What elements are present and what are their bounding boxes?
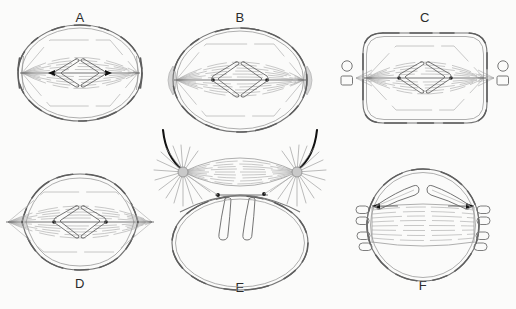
figure-canvas: A xyxy=(0,0,516,309)
chromosome-left xyxy=(219,198,231,241)
polar-cap-right xyxy=(141,58,142,88)
chromosome-right xyxy=(243,198,255,241)
cell-membrane-inner xyxy=(176,199,305,287)
panel-c: C xyxy=(341,10,509,123)
organelle-circle-right xyxy=(498,61,508,71)
chromosome-left xyxy=(376,185,419,209)
centrosome-blob-right xyxy=(304,66,313,95)
centrosome-blob-left xyxy=(168,66,177,95)
panel-label-f: F xyxy=(419,278,427,293)
panel-label-d: D xyxy=(75,276,85,291)
chromosome-right xyxy=(427,185,470,209)
panel-label-e: E xyxy=(235,280,244,295)
panel-d: D xyxy=(6,174,154,291)
panel-label-b: B xyxy=(235,10,244,25)
pole-organelles-right xyxy=(474,206,490,251)
chromosome-left xyxy=(399,62,425,94)
cell-membrane-texture xyxy=(172,196,308,290)
mitosis-figure: A xyxy=(0,0,516,309)
organelle-square-left xyxy=(341,76,353,85)
panel-label-a: A xyxy=(75,10,84,25)
panel-label-c: C xyxy=(420,10,430,25)
cell-membrane-inner xyxy=(371,173,476,278)
panel-b: B xyxy=(168,10,312,132)
organelle-square-right xyxy=(497,76,509,85)
chromosome-right xyxy=(426,62,452,94)
external-spindle xyxy=(183,158,297,186)
panel-a: A xyxy=(18,10,142,121)
organelle-circle-left xyxy=(342,61,352,71)
panel-f: F xyxy=(356,169,490,293)
barrel-spindle xyxy=(367,204,479,246)
axis-arrow-right xyxy=(105,70,112,76)
axis-arrow-left xyxy=(48,70,55,76)
polar-cap-left xyxy=(18,58,19,88)
panel-e: E xyxy=(154,130,326,295)
